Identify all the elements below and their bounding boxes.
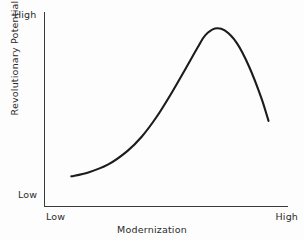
chart-figure: High Low Low High Modernization Revoluti… <box>0 0 304 240</box>
revolutionary-potential-curve <box>71 28 268 176</box>
x-axis-tick-high: High <box>276 212 298 222</box>
x-axis-title: Modernization <box>0 225 304 235</box>
y-axis-title-container: Revolutionary Potential <box>10 0 26 138</box>
plot-area <box>0 0 304 240</box>
y-axis-tick-low: Low <box>18 190 37 200</box>
y-axis-title: Revolutionary Potential <box>10 0 20 138</box>
x-axis-tick-low: Low <box>46 212 65 222</box>
